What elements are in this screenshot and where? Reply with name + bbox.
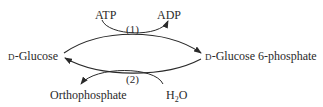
adp-label: ADP xyxy=(157,8,181,22)
node-d-glucose-6-phosphate: D-Glucose 6-phosphate xyxy=(205,49,317,64)
water-label: H2O xyxy=(166,88,187,107)
d-prefix: D xyxy=(205,52,212,62)
water-h: H xyxy=(166,88,175,102)
atp-label: ATP xyxy=(95,8,116,22)
orthophosphate-label: Orthophosphate xyxy=(50,88,127,102)
node-d-glucose: D-Glucose xyxy=(8,49,58,64)
reaction-1-number: (1) xyxy=(126,22,139,36)
d-prefix: D xyxy=(8,52,15,62)
water-o: O xyxy=(179,88,188,102)
substrate-cycle-diagram: D-Glucose D-Glucose 6-phosphate ATP ADP … xyxy=(0,0,323,107)
reaction-2-number: (2) xyxy=(126,72,139,86)
node-name: -Glucose 6-phosphate xyxy=(212,49,317,63)
reaction-1-arrow xyxy=(64,34,201,53)
node-name: -Glucose xyxy=(15,49,58,63)
